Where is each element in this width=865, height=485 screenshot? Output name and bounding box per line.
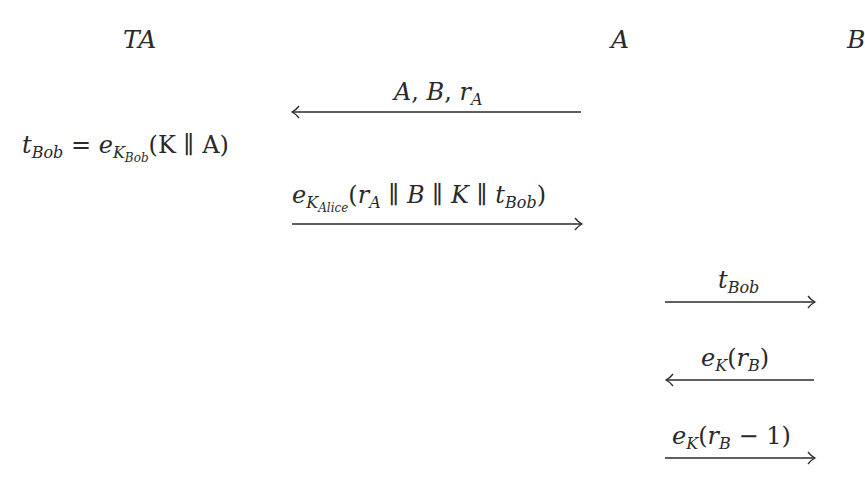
message-4-arrow-left [664,373,816,387]
arrow-right-icon [292,217,584,231]
arrow-left-icon [290,105,582,119]
message-1-arrow-left [290,105,582,119]
message-2-label: eKAlice(rA ∥ B ∥ K ∥ tBob) [292,183,546,208]
message-3-label: tBob [718,268,759,292]
party-ta-label: TA [123,27,156,52]
arrow-right-icon [665,295,817,309]
arrow-right-icon [665,451,817,465]
message-2-arrow-right [292,217,584,231]
party-a-label: A [611,27,629,52]
party-b-label: B [847,27,865,52]
message-5-arrow-right [665,451,817,465]
message-3-arrow-right [665,295,817,309]
arrow-left-icon [664,373,816,387]
ta-computation: tBob = eKBob(K ∥ A) [22,133,229,158]
message-1-label: A, B, rA [394,80,483,104]
message-5-label: eK(rB − 1) [672,424,791,448]
message-4-label: eK(rB) [701,346,769,370]
